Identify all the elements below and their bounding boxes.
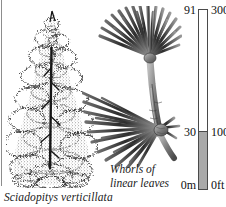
- scale-bar-fill: [199, 131, 207, 189]
- species-caption: Sciadopitys verticillata: [4, 191, 113, 203]
- scale-tick-metric-bottom: 0m: [181, 178, 196, 193]
- scale-tick-imperial-top: 300: [211, 3, 226, 18]
- scale-tick-imperial-mid: 100: [211, 125, 226, 140]
- whorl-annotation-line1: Whorls of: [110, 162, 169, 176]
- upper-whorl: [100, 6, 181, 56]
- lower-node: [154, 124, 168, 136]
- scale-tick-imperial-bottom: 0ft: [211, 178, 224, 193]
- botanical-figure: Whorls of linear leaves Sciadopitys vert…: [0, 0, 226, 207]
- scale-tick-metric-top: 91: [184, 3, 196, 18]
- leaf-whorl-illustration: [82, 6, 182, 168]
- whorl-annotation-line2: linear leaves: [110, 176, 169, 190]
- upper-node: [144, 53, 156, 63]
- whorl-annotation: Whorls of linear leaves: [110, 162, 169, 190]
- left-border-rule: [1, 0, 2, 186]
- scale-tick-metric-mid: 30: [184, 125, 196, 140]
- height-scale-bar: [198, 9, 208, 190]
